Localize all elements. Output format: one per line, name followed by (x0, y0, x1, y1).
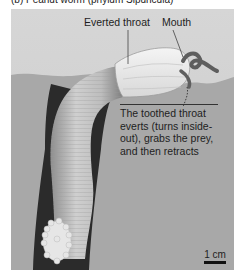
scale-bar: 1 cm (204, 249, 226, 264)
scale-bar-line (204, 261, 226, 264)
figure-caption-cropped: (b) Peanut worm (phylum Sipuncula) (11, 0, 173, 5)
scale-bar-label: 1 cm (204, 249, 226, 260)
label-mouth: Mouth (162, 16, 191, 28)
description-rule (120, 104, 218, 105)
illustration-panel: Everted throat Mouth The toothed throat … (11, 9, 234, 270)
description-text: The toothed throat everts (turns inside-… (120, 107, 232, 157)
label-everted-throat: Everted throat (84, 16, 150, 28)
